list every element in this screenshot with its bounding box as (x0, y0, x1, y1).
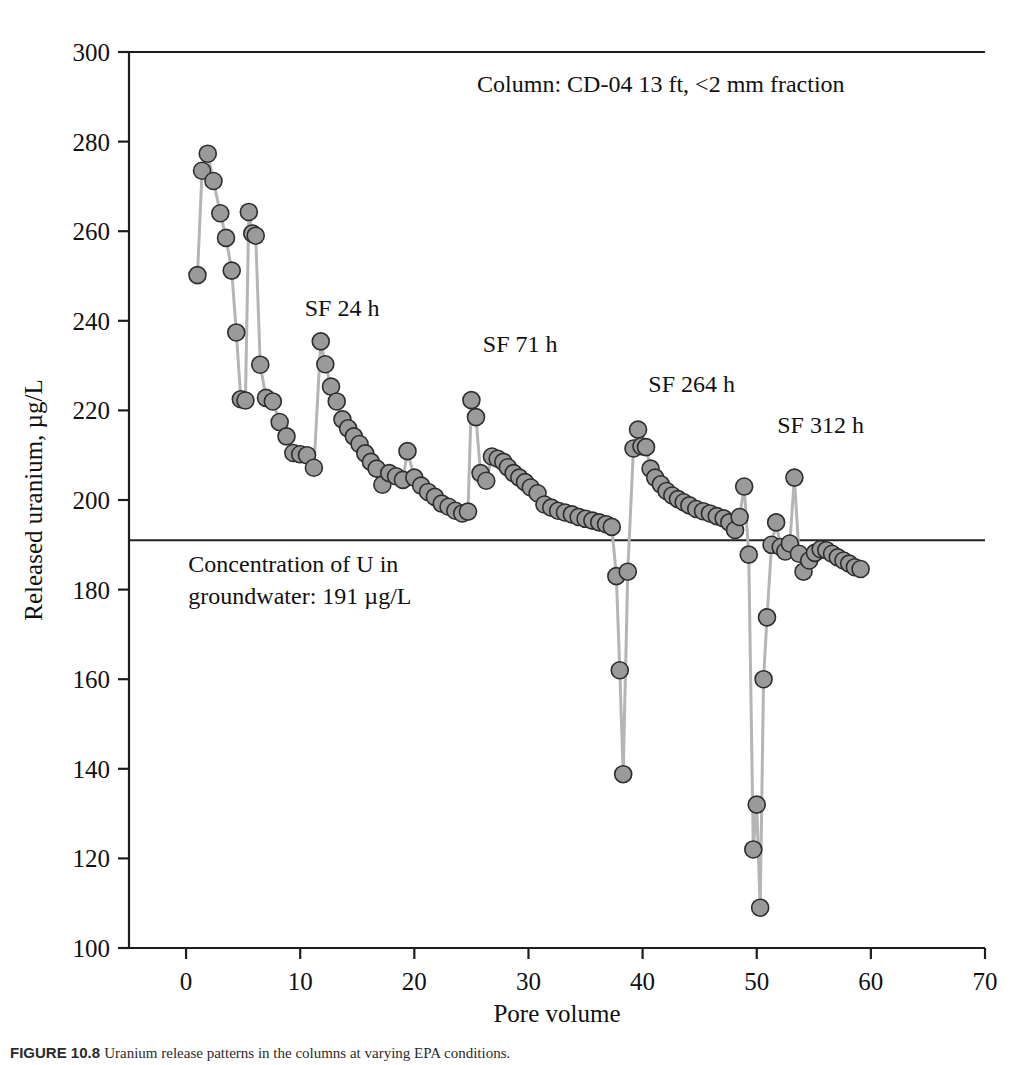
data-point (399, 443, 416, 460)
data-point (305, 459, 322, 476)
x-tick-label: 0 (180, 968, 193, 995)
chart-annotation: SF 264 h (648, 371, 735, 397)
x-tick-label: 60 (858, 968, 883, 995)
chart-annotation: Column: CD-04 13 ft, <2 mm fraction (477, 71, 845, 97)
data-point (240, 203, 257, 220)
y-tick-label: 240 (73, 308, 111, 335)
data-point (478, 472, 495, 489)
data-point (759, 609, 776, 626)
data-point (745, 841, 762, 858)
data-point (205, 173, 222, 190)
data-point (603, 518, 620, 535)
data-point (189, 267, 206, 284)
y-tick-label: 160 (73, 666, 111, 693)
data-point (752, 899, 769, 916)
data-point (611, 662, 628, 679)
data-point (328, 393, 345, 410)
y-tick-label: 200 (73, 487, 111, 514)
data-point (748, 796, 765, 813)
data-point (247, 227, 264, 244)
y-tick-label: 100 (73, 935, 111, 962)
y-tick-label: 180 (73, 577, 111, 604)
chart-background (0, 0, 1030, 1065)
data-point (638, 439, 655, 456)
uranium-release-chart: 1001201401601802002202402602803000102030… (0, 0, 1030, 1065)
data-point (630, 421, 647, 438)
caption-label: FIGURE 10.8 (10, 1044, 100, 1061)
chart-annotation: SF 312 h (777, 412, 864, 438)
x-axis-title: Pore volume (493, 1000, 620, 1027)
data-point (786, 469, 803, 486)
caption-body: Uranium release patterns in the columns … (104, 1045, 510, 1061)
data-point (459, 503, 476, 520)
data-point (768, 514, 785, 531)
data-point (264, 393, 281, 410)
figure-caption: FIGURE 10.8 Uranium release patterns in … (10, 1044, 1020, 1062)
x-tick-label: 10 (288, 968, 313, 995)
y-tick-label: 220 (73, 397, 111, 424)
y-tick-label: 140 (73, 756, 111, 783)
data-point (223, 262, 240, 279)
chart-annotation: SF 71 h (483, 331, 558, 357)
data-point (852, 560, 869, 577)
y-tick-label: 120 (73, 845, 111, 872)
data-point (237, 392, 254, 409)
x-tick-label: 50 (744, 968, 769, 995)
data-point (755, 671, 772, 688)
data-point (252, 356, 269, 373)
data-point (467, 409, 484, 426)
data-point (619, 563, 636, 580)
data-point (312, 333, 329, 350)
y-tick-label: 280 (73, 129, 111, 156)
data-point (317, 356, 334, 373)
data-point (463, 392, 480, 409)
y-axis-title: Released uranium, µg/L (20, 379, 47, 620)
groundwater-annotation-line: groundwater: 191 µg/L (188, 583, 411, 609)
data-point (731, 509, 748, 526)
groundwater-annotation-line: Concentration of U in (188, 551, 398, 577)
data-point (740, 546, 757, 563)
y-tick-label: 260 (73, 218, 111, 245)
figure-root: 1001201401601802002202402602803000102030… (0, 0, 1030, 1065)
data-point (199, 145, 216, 162)
x-tick-label: 70 (973, 968, 998, 995)
data-point (218, 229, 235, 246)
data-point (736, 478, 753, 495)
x-tick-label: 30 (516, 968, 541, 995)
x-tick-label: 40 (630, 968, 655, 995)
x-tick-label: 20 (402, 968, 427, 995)
y-tick-label: 300 (73, 39, 111, 66)
data-point (228, 324, 245, 341)
data-point (278, 428, 295, 445)
chart-annotation: SF 24 h (305, 295, 380, 321)
data-point (615, 766, 632, 783)
data-point (212, 205, 229, 222)
